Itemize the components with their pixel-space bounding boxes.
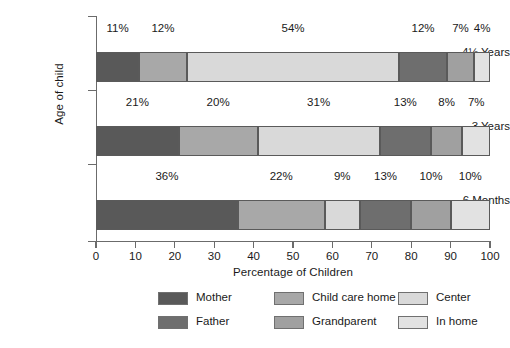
bar-segment: [399, 52, 446, 82]
bar-segment-label: 10%: [450, 170, 490, 182]
x-axis-tick: [489, 242, 490, 248]
bar-segment: [139, 52, 186, 82]
bar-segment: [474, 52, 490, 82]
x-axis-tick: [450, 242, 451, 248]
bar-segment-label: 11%: [98, 22, 138, 34]
bar-segment-label: 54%: [273, 22, 313, 34]
bar-segment: [380, 126, 431, 156]
bar-segment-label: 36%: [147, 170, 187, 182]
x-axis-tick-label: 30: [199, 250, 229, 262]
bar-segment: [447, 52, 475, 82]
y-axis-tick: [88, 90, 96, 91]
legend-label: Father: [196, 315, 229, 327]
x-axis-tick: [332, 242, 333, 248]
bar-segment-label: 22%: [261, 170, 301, 182]
x-axis-tick-label: 0: [81, 250, 111, 262]
bar-segment-label: 12%: [143, 22, 183, 34]
y-axis-tick: [88, 164, 96, 165]
bar-segment: [431, 126, 463, 156]
y-axis-tick: [88, 16, 96, 17]
bar-segment: [411, 200, 450, 230]
legend-swatch: [398, 316, 428, 329]
legend-label: Grandparent: [312, 315, 377, 327]
x-axis-tick: [95, 242, 96, 248]
legend-label: Child care home: [312, 291, 396, 303]
stacked-bar: [96, 200, 490, 230]
x-axis-tick-label: 60: [317, 250, 347, 262]
x-axis-tick: [292, 242, 293, 248]
bar-segment-label: 21%: [117, 96, 157, 108]
x-axis-tick-label: 10: [120, 250, 150, 262]
x-axis-tick-label: 70: [357, 250, 387, 262]
bar-segment: [325, 200, 360, 230]
bar-segment: [96, 200, 238, 230]
x-axis-tick: [135, 242, 136, 248]
bar-segment: [360, 200, 411, 230]
bar-segment-label: 13%: [385, 96, 425, 108]
x-axis-tick-label: 80: [396, 250, 426, 262]
bar-segment-label: 20%: [198, 96, 238, 108]
bar-segment-label: 12%: [403, 22, 443, 34]
bar-segment: [187, 52, 400, 82]
x-axis-tick-label: 40: [239, 250, 269, 262]
stacked-bar: [96, 52, 490, 82]
legend-label: Mother: [196, 291, 232, 303]
bar-segment-label: 10%: [411, 170, 451, 182]
bar-segment-label: 13%: [366, 170, 406, 182]
bar-segment: [258, 126, 380, 156]
y-axis-title: Age of child: [53, 49, 65, 139]
legend-swatch: [158, 292, 188, 305]
plot-area: 11%12%54%12%7%4%21%20%31%13%8%7%36%22%9%…: [96, 14, 490, 238]
legend-label: In home: [436, 315, 478, 327]
stacked-bar-chart: Age of child 0102030405060708090100 4½ Y…: [0, 0, 510, 348]
bar-segment: [462, 126, 490, 156]
x-axis-tick: [214, 242, 215, 248]
legend-swatch: [274, 292, 304, 305]
bar-segment: [179, 126, 258, 156]
x-axis-tick-label: 90: [436, 250, 466, 262]
x-axis-tick: [371, 242, 372, 248]
bar-segment: [238, 200, 325, 230]
chart-legend: MotherFatherChild care homeGrandparentCe…: [158, 291, 498, 339]
x-axis-title: Percentage of Children: [96, 266, 490, 278]
legend-swatch: [158, 316, 188, 329]
bar-segment: [96, 52, 139, 82]
legend-swatch: [398, 292, 428, 305]
stacked-bar: [96, 126, 490, 156]
legend-label: Center: [436, 291, 471, 303]
bar-segment-label: 7%: [456, 96, 496, 108]
bar-segment-label: 4%: [462, 22, 502, 34]
bar-segment-label: 31%: [299, 96, 339, 108]
x-axis-tick: [411, 242, 412, 248]
legend-swatch: [274, 316, 304, 329]
bar-segment: [96, 126, 179, 156]
x-axis-tick: [174, 242, 175, 248]
x-axis-tick-label: 50: [278, 250, 308, 262]
x-axis-tick: [253, 242, 254, 248]
bar-segment-label: 9%: [322, 170, 362, 182]
x-axis-tick-label: 100: [475, 250, 505, 262]
x-axis-tick-label: 20: [160, 250, 190, 262]
bar-segment: [451, 200, 490, 230]
